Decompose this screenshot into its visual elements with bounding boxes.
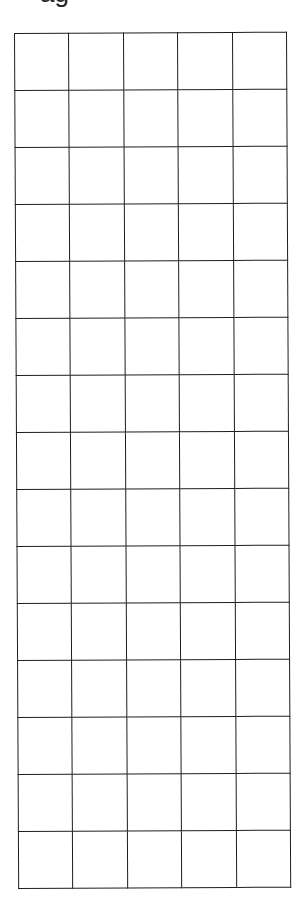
cropped-heading-text: ag xyxy=(40,0,69,9)
grid-cell xyxy=(123,33,178,90)
grid-cell xyxy=(16,432,71,489)
grid-cell xyxy=(234,488,289,545)
grid-row xyxy=(17,488,289,546)
grid-cell xyxy=(16,318,71,375)
grid-cell xyxy=(179,317,234,374)
grid-row xyxy=(16,374,288,432)
grid-cell xyxy=(125,318,180,375)
grid-cell xyxy=(127,774,182,831)
grid-cell xyxy=(235,602,290,659)
grid-cell xyxy=(233,146,288,203)
grid-cell xyxy=(17,546,72,603)
grid-cell xyxy=(232,32,287,89)
grid-cell xyxy=(180,488,235,545)
grid-cell xyxy=(233,317,288,374)
grid-row xyxy=(15,203,287,261)
grid-cell xyxy=(73,774,128,831)
grid-cell xyxy=(71,489,126,546)
grid-cell xyxy=(126,603,181,660)
grid-cell xyxy=(71,546,126,603)
grid-cell xyxy=(124,261,179,318)
grid-cell xyxy=(178,32,233,89)
grid-cell xyxy=(234,431,289,488)
grid-cell xyxy=(18,660,73,717)
grid-row xyxy=(18,716,290,774)
grid-cell xyxy=(17,603,72,660)
grid-cell xyxy=(127,831,182,888)
grid-row xyxy=(16,431,288,489)
grid-cell xyxy=(125,432,180,489)
grid-cell xyxy=(181,773,236,830)
empty-grid-table xyxy=(14,32,291,889)
grid-row xyxy=(15,89,287,147)
grid-cell xyxy=(235,659,290,716)
grid-cell xyxy=(15,90,70,147)
grid-cell xyxy=(182,830,237,887)
grid-cell xyxy=(16,261,71,318)
grid-cell xyxy=(73,831,128,888)
grid-cell xyxy=(124,204,179,261)
grid-cell xyxy=(71,432,126,489)
grid-cell xyxy=(124,147,179,204)
grid xyxy=(14,32,291,889)
grid-cell xyxy=(15,147,70,204)
grid-cell xyxy=(18,774,73,831)
grid-cell xyxy=(71,375,126,432)
grid-cell xyxy=(70,261,125,318)
grid-cell xyxy=(17,489,72,546)
grid-row xyxy=(17,602,289,660)
grid-cell xyxy=(15,33,70,90)
grid-cell xyxy=(70,204,125,261)
grid-cell xyxy=(233,203,288,260)
grid-cell xyxy=(69,90,124,147)
grid-cell xyxy=(180,431,235,488)
grid-row xyxy=(15,32,287,90)
grid-cell xyxy=(70,318,125,375)
grid-cell xyxy=(72,603,127,660)
grid-cell xyxy=(72,717,127,774)
grid-row xyxy=(18,659,290,717)
grid-cell xyxy=(126,546,181,603)
grid-row xyxy=(17,545,289,603)
grid-cell xyxy=(180,545,235,602)
grid-cell xyxy=(235,545,290,602)
grid-cell xyxy=(18,831,73,888)
grid-cell xyxy=(179,260,234,317)
grid-cell xyxy=(235,716,290,773)
grid-cell xyxy=(232,89,287,146)
grid-cell xyxy=(181,716,236,773)
grid-cell xyxy=(234,374,289,431)
grid-row xyxy=(15,146,287,204)
grid-row xyxy=(16,317,288,375)
grid-cell xyxy=(180,602,235,659)
grid-cell xyxy=(16,375,71,432)
grid-row xyxy=(18,773,290,831)
grid-cell xyxy=(179,374,234,431)
grid-cell xyxy=(18,717,73,774)
grid-cell xyxy=(126,489,181,546)
grid-cell xyxy=(69,147,124,204)
grid-cell xyxy=(178,89,233,146)
grid-cell xyxy=(125,375,180,432)
grid-cell xyxy=(236,773,291,830)
grid-cell xyxy=(15,204,70,261)
grid-cell xyxy=(72,660,127,717)
grid-cell xyxy=(178,146,233,203)
grid-row xyxy=(16,260,288,318)
grid-cell xyxy=(236,830,291,887)
grid-cell xyxy=(181,659,236,716)
grid-cell xyxy=(69,33,124,90)
grid-cell xyxy=(126,660,181,717)
grid-cell xyxy=(179,203,234,260)
grid-cell xyxy=(124,90,179,147)
grid-row xyxy=(18,830,290,888)
grid-cell xyxy=(127,717,182,774)
grid-cell xyxy=(233,260,288,317)
